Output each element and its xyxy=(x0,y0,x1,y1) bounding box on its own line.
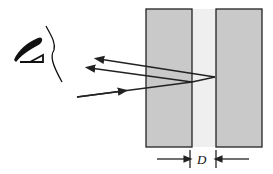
dimension-label: D xyxy=(196,152,207,167)
diagram-canvas: D xyxy=(0,0,273,174)
eye-icon xyxy=(14,26,62,82)
left-plate xyxy=(146,9,192,147)
right-plate xyxy=(216,9,262,147)
incident-ray-arrow xyxy=(77,91,123,97)
